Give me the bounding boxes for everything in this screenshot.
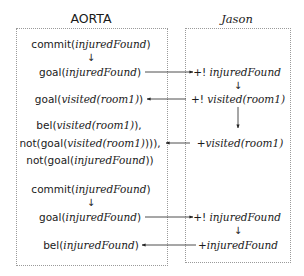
aorta-goal-visited: goal(visited(room1)) [35,92,143,106]
down-arrow-icon: ↓ [87,198,95,208]
aorta-commit-injured-2: commit(injuredFound) [31,182,150,196]
aorta-not-goal-visited: not(goal(visited(room1)))), [19,136,160,150]
aorta-not-goal-injured: not(goal(injuredFound)) [26,153,153,167]
down-arrow-icon: ↓ [234,81,242,91]
aorta-goal-injured-2: goal(injuredFound) [39,210,141,224]
aorta-goal-injured-1: goal(injuredFound) [39,65,141,79]
jason-achieve-visited: +! visited(room1) [191,92,285,106]
aorta-commit-injured-1: commit(injuredFound) [31,37,150,51]
aorta-bel-injured: bel(injuredFound) [43,238,139,252]
aorta-bel-visited: bel(visited(room1)), [36,118,141,132]
down-arrow-icon: ↓ [234,226,242,236]
jason-achieve-injured-1: +! injuredFound [193,65,281,79]
jason-belief-injured: +injuredFound [198,238,278,252]
jason-belief-visited: +visited(room1) [197,136,284,150]
jason-achieve-injured-2: +! injuredFound [193,210,281,224]
down-arrow-icon: ↓ [87,53,95,63]
